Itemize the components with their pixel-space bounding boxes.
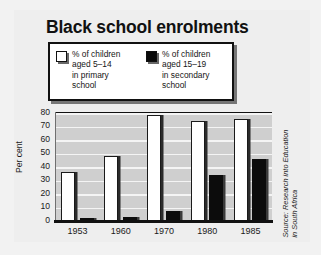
legend-item-primary: % of childrenaged 5–14in primaryschool	[56, 49, 146, 99]
bar-1985-primary	[234, 119, 248, 222]
chart-legend: % of childrenaged 5–14in primaryschool %…	[48, 42, 234, 101]
legend-swatch-secondary-icon	[146, 51, 157, 62]
bar-1985-secondary	[252, 159, 266, 222]
bar-1953-primary	[61, 172, 75, 222]
legend-primary-line2: aged 5–14	[72, 59, 112, 69]
y-tick-label: 60	[30, 135, 50, 144]
legend-secondary-line3: in secondary	[162, 70, 210, 80]
legend-item-secondary: % of childrenaged 15–19in secondaryschoo…	[146, 49, 210, 99]
x-tick-label: 1985	[228, 226, 272, 236]
legend-secondary-line1: % of children	[162, 49, 210, 59]
x-tick-label: 1970	[142, 226, 186, 236]
y-tick-label: 70	[30, 121, 50, 130]
bar-1970-primary	[147, 115, 161, 222]
chart-screenshot: Black school enrolments % of childrenage…	[0, 0, 321, 255]
gridline	[56, 113, 272, 115]
x-tick-label: 1980	[185, 226, 229, 236]
bar-1980-secondary	[209, 175, 223, 222]
y-tick-label: 20	[30, 189, 50, 198]
legend-secondary-line2: aged 15–19	[162, 59, 206, 69]
y-tick-label: 40	[30, 162, 50, 171]
legend-swatch-primary-icon	[56, 51, 67, 62]
source-note: Source: Research into Education in South…	[282, 110, 299, 238]
x-axis-line	[54, 220, 273, 223]
y-axis-line	[55, 112, 57, 220]
bar-1980-primary	[191, 121, 205, 222]
bar-1960-primary	[104, 156, 118, 222]
y-tick-label: 0	[30, 216, 50, 225]
legend-primary-line1: % of children	[72, 49, 120, 59]
legend-primary-line3: in primary	[72, 70, 109, 80]
x-tick-label: 1953	[56, 226, 100, 236]
y-tick-label: 80	[30, 108, 50, 117]
y-tick-label: 30	[30, 175, 50, 184]
y-axis-label: Per cent	[14, 131, 24, 183]
plot-area	[56, 112, 272, 222]
legend-label-primary: % of childrenaged 5–14in primaryschool	[72, 49, 120, 91]
y-tick-label: 50	[30, 148, 50, 157]
chart-title: Black school enrolments	[46, 17, 249, 38]
x-tick-label: 1960	[99, 226, 143, 236]
legend-label-secondary: % of childrenaged 15–19in secondaryschoo…	[162, 49, 210, 91]
legend-secondary-line4: school	[162, 80, 186, 90]
y-tick-label: 10	[30, 202, 50, 211]
legend-primary-line4: school	[72, 80, 96, 90]
